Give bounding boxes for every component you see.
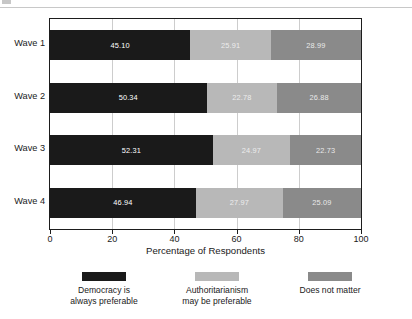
legend-swatch (195, 272, 239, 281)
y-axis-label-wave-4: Wave 4 (14, 197, 45, 206)
legend-swatch (308, 272, 352, 281)
bar-segment[interactable]: 22.78 (207, 83, 278, 113)
bar-row[interactable]: 50.3422.7826.88 (50, 83, 361, 113)
legend-item[interactable]: Democracy isalways preferable (49, 272, 159, 306)
legend-swatch (82, 272, 126, 281)
bar-segment[interactable]: 28.99 (271, 30, 361, 60)
bar-value-label: 26.88 (310, 94, 329, 101)
x-axis-title: Percentage of Respondents (49, 246, 362, 256)
legend-label-line2: always preferable (49, 296, 159, 307)
x-tick-label: 40 (169, 235, 179, 244)
legend-label-line1: Does not matter (275, 285, 385, 296)
bar-segment[interactable]: 27.97 (196, 188, 283, 218)
plot-area: 45.1025.9128.9950.3422.7826.8852.3124.97… (50, 19, 361, 229)
bar-value-label: 25.09 (312, 199, 331, 206)
legend-label-line1: Democracy is (49, 285, 159, 296)
x-tick-label: 80 (294, 235, 304, 244)
bar-segment[interactable]: 24.97 (213, 135, 291, 165)
x-tick-label: 60 (232, 235, 242, 244)
bar-row[interactable]: 46.9427.9725.09 (50, 188, 361, 218)
y-axis-label-wave-2: Wave 2 (14, 92, 45, 101)
y-axis-category-labels: Wave 1Wave 2Wave 3Wave 4 (0, 18, 45, 230)
bar-segment[interactable]: 52.31 (50, 135, 213, 165)
y-axis-label-wave-1: Wave 1 (14, 39, 45, 48)
bar-value-label: 52.31 (122, 147, 141, 154)
legend-item[interactable]: Does not matter (275, 272, 385, 296)
legend-item[interactable]: Authoritarianismmay be preferable (162, 272, 272, 306)
bar-value-label: 27.97 (230, 199, 249, 206)
bar-segment[interactable]: 45.10 (50, 30, 190, 60)
bar-segment[interactable]: 50.34 (50, 83, 207, 113)
x-axis-ticks: 020406080100 (49, 230, 362, 246)
x-tick-label: 0 (47, 235, 52, 244)
bar-value-label: 45.10 (111, 42, 130, 49)
bar-value-label: 25.91 (221, 42, 240, 49)
bar-segment[interactable]: 25.09 (283, 188, 361, 218)
bar-value-label: 24.97 (242, 147, 261, 154)
plot-frame: 45.1025.9128.9950.3422.7826.8852.3124.97… (49, 18, 362, 230)
x-tick-label: 100 (353, 235, 368, 244)
bar-value-label: 46.94 (113, 199, 132, 206)
bar-row[interactable]: 52.3124.9722.73 (50, 135, 361, 165)
bar-row[interactable]: 45.1025.9128.99 (50, 30, 361, 60)
bar-segment[interactable]: 46.94 (50, 188, 196, 218)
x-tick-label: 20 (107, 235, 117, 244)
chart-legend: Democracy isalways preferableAuthoritari… (49, 272, 389, 316)
bar-segment[interactable]: 26.88 (277, 83, 361, 113)
bar-value-label: 22.73 (316, 147, 335, 154)
bar-segment[interactable]: 22.73 (290, 135, 361, 165)
bar-value-label: 28.99 (306, 42, 325, 49)
bar-segment[interactable]: 25.91 (190, 30, 271, 60)
legend-label-line2: may be preferable (162, 296, 272, 307)
stacked-bar-chart: Wave 1Wave 2Wave 3Wave 4 45.1025.9128.99… (0, 0, 412, 319)
y-axis-label-wave-3: Wave 3 (14, 144, 45, 153)
bar-value-label: 50.34 (119, 94, 138, 101)
legend-label-line1: Authoritarianism (162, 285, 272, 296)
bar-value-label: 22.78 (232, 94, 251, 101)
